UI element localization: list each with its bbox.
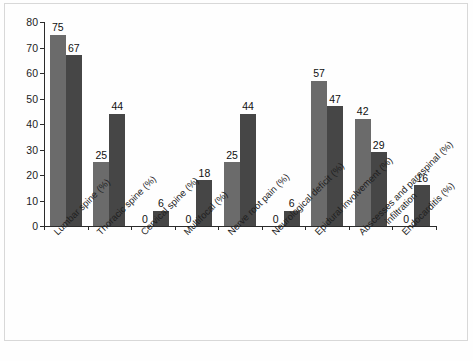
bar-value-label: 29 bbox=[373, 140, 385, 151]
bar: 44 bbox=[109, 22, 125, 226]
bar: 6 bbox=[284, 22, 300, 226]
chart-figure: 01020304050607080 7567254406018254406574… bbox=[0, 0, 473, 361]
bar-value-label: 44 bbox=[242, 101, 254, 112]
y-tick-mark bbox=[40, 201, 44, 202]
y-axis-line bbox=[44, 22, 45, 226]
bar: 18 bbox=[196, 22, 212, 226]
bar-value-label: 75 bbox=[52, 22, 64, 33]
y-tick-label: 70 bbox=[26, 42, 38, 53]
y-tick-mark bbox=[40, 150, 44, 151]
bar: 44 bbox=[240, 22, 256, 226]
y-tick-label: 0 bbox=[32, 221, 38, 232]
bar-value-label: 18 bbox=[199, 168, 211, 179]
bar-value-label: 25 bbox=[226, 150, 238, 161]
bar: 67 bbox=[66, 22, 82, 226]
y-tick-label: 60 bbox=[26, 68, 38, 79]
y-tick-mark bbox=[40, 175, 44, 176]
bar-value-label: 42 bbox=[357, 106, 369, 117]
bar-rect bbox=[311, 81, 327, 226]
y-tick-label: 80 bbox=[26, 17, 38, 28]
bar-value-label: 67 bbox=[68, 43, 80, 54]
y-tick-mark bbox=[40, 99, 44, 100]
y-tick-label: 30 bbox=[26, 144, 38, 155]
x-axis-category-labels: Lumbar spine (%)Thoracic spine (%)Cervic… bbox=[44, 230, 473, 355]
bar-value-label: 25 bbox=[95, 150, 107, 161]
y-tick-mark bbox=[40, 22, 44, 23]
bar-value-label: 57 bbox=[313, 68, 325, 79]
bar: 75 bbox=[50, 22, 66, 226]
bar-value-label: 44 bbox=[111, 101, 123, 112]
y-tick-mark bbox=[40, 124, 44, 125]
y-tick-label: 50 bbox=[26, 93, 38, 104]
bar: 29 bbox=[371, 22, 387, 226]
y-tick-label: 40 bbox=[26, 119, 38, 130]
plot-area: 01020304050607080 7567254406018254406574… bbox=[44, 22, 436, 226]
bar-rect bbox=[50, 35, 66, 226]
bar: 6 bbox=[153, 22, 169, 226]
bar-group: 7567 bbox=[50, 22, 82, 226]
y-tick-label: 20 bbox=[26, 170, 38, 181]
y-tick-mark bbox=[40, 48, 44, 49]
y-tick-mark bbox=[40, 73, 44, 74]
bar-value-label: 47 bbox=[329, 94, 341, 105]
bar: 47 bbox=[327, 22, 343, 226]
y-tick-label: 10 bbox=[26, 195, 38, 206]
